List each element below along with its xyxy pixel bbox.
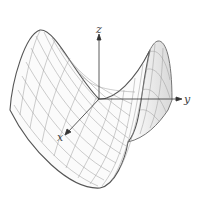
z-axis-label: z — [95, 23, 102, 36]
x-axis-label: x — [57, 131, 64, 144]
saddle-surface-figure: z y x — [0, 0, 202, 201]
y-axis-arrow-icon — [176, 97, 182, 101]
y-axis-label: y — [183, 93, 191, 106]
